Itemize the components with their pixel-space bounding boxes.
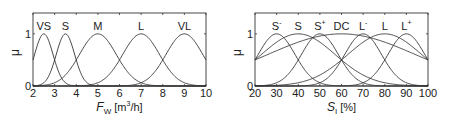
membership-curve-5 (255, 34, 428, 86)
curve-label: S (295, 20, 302, 32)
x-tick-label: 10 (200, 87, 212, 99)
y-tick-label: 0 (25, 80, 31, 92)
y-tick-label: 1 (247, 28, 253, 40)
curve-label: S- (272, 19, 282, 32)
x-tick-label: 70 (357, 87, 369, 99)
x-tick-label: 50 (314, 87, 326, 99)
curve-label: DC (334, 20, 350, 32)
curve-label: VS (36, 20, 51, 32)
membership-curve-3 (33, 34, 206, 86)
x-axis-label: SI [%] (327, 100, 356, 116)
x-tick-label: 9 (181, 87, 187, 99)
x-tick-label: 60 (335, 87, 347, 99)
x-tick-label: 6 (116, 87, 122, 99)
x-tick-label: 3 (52, 87, 58, 99)
curve-label: L (382, 20, 388, 32)
x-tick-label: 100 (419, 87, 437, 99)
x-tick-label: 5 (95, 87, 101, 99)
x-tick-label: 80 (379, 87, 391, 99)
chart-flow-membership: VSSMLVL234567891001μFW [m3/h] (0, 0, 226, 119)
y-axis-label: μ (8, 49, 22, 56)
curve-label: L- (359, 19, 368, 32)
x-tick-label: 40 (292, 87, 304, 99)
curve-label: L (138, 20, 144, 32)
curve-label: S (62, 20, 69, 32)
curve-label: VL (178, 20, 191, 32)
x-tick-label: 7 (138, 87, 144, 99)
curve-label: S+ (314, 19, 325, 32)
membership-curve-3 (255, 34, 428, 60)
y-tick-label: 1 (25, 28, 31, 40)
x-tick-label: 90 (400, 87, 412, 99)
y-tick-label: 0 (247, 80, 253, 92)
x-tick-label: 30 (271, 87, 283, 99)
chart-level-membership: S-SS+DCL-LL+203040506070809010001μSI [%] (226, 0, 453, 119)
y-axis-label: μ (230, 49, 244, 56)
curve-label: M (93, 20, 102, 32)
x-tick-label: 8 (160, 87, 166, 99)
x-tick-label: 4 (73, 87, 79, 99)
x-axis-label: FW [m3/h] (96, 100, 142, 116)
curve-label: L+ (401, 19, 411, 32)
